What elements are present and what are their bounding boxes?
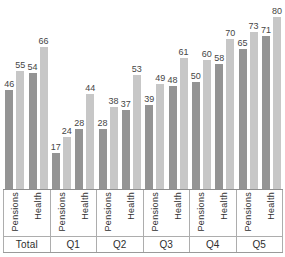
tick-cell-total-health: Health (27, 190, 50, 236)
axis-label-pensions: Pensions (243, 192, 253, 231)
bar-value-label: 48 (168, 75, 178, 85)
bar-group-q2: 28383753 (96, 0, 143, 189)
subcat-q3-health: 4861 (166, 0, 189, 189)
bar-q3-pensions-dark-gray-series (145, 105, 153, 189)
bar-wrap-total-health-dark-gray-series: 54 (29, 62, 37, 189)
tick-cell-q5-health: Health (259, 190, 282, 236)
bar-total-pensions-dark-gray-series (5, 90, 13, 189)
bar-value-label: 17 (51, 142, 61, 152)
bar-q2-health-light-gray-series (133, 75, 141, 189)
tick-cell-q3-health: Health (166, 190, 189, 236)
subcat-q2-pensions: 2838 (96, 0, 119, 189)
bar-wrap-q5-pensions-dark-gray-series: 65 (239, 38, 247, 189)
bar-q4-pensions-dark-gray-series (192, 82, 200, 190)
axis-label-health: Health (126, 192, 136, 220)
bar-q1-health-dark-gray-series (75, 129, 83, 189)
bar-q1-pensions-light-gray-series (63, 137, 71, 189)
subcat-total-health: 5466 (26, 0, 49, 189)
tick-cell-q2-pensions: Pensions (97, 190, 120, 236)
bar-value-label: 50 (191, 71, 201, 81)
subcat-q1-health: 2844 (73, 0, 96, 189)
bar-value-label: 38 (109, 96, 119, 106)
tick-group-q2: PensionsHealth (96, 190, 143, 236)
bar-value-label: 80 (272, 6, 282, 16)
bar-q3-health-dark-gray-series (169, 86, 177, 189)
bar-total-health-light-gray-series (40, 47, 48, 189)
bar-q1-health-light-gray-series (86, 94, 94, 189)
bar-value-label: 54 (28, 62, 38, 72)
bar-value-label: 58 (214, 53, 224, 63)
bar-value-label: 66 (39, 36, 49, 46)
tick-cell-q2-health: Health (120, 190, 143, 236)
axis-label-pensions: Pensions (57, 192, 67, 231)
bar-group-total: 46555466 (3, 0, 50, 189)
bar-value-label: 60 (202, 49, 212, 59)
bar-value-label: 24 (62, 126, 72, 136)
bar-value-label: 55 (15, 60, 25, 70)
bar-value-label: 39 (144, 94, 154, 104)
bar-wrap-q4-pensions-light-gray-series: 60 (203, 49, 211, 189)
tick-group-q3: PensionsHealth (143, 190, 190, 236)
bar-group-q3: 39494861 (143, 0, 190, 189)
bar-q4-health-light-gray-series (226, 39, 234, 190)
bar-value-label: 71 (261, 25, 271, 35)
tick-cell-q1-health: Health (73, 190, 96, 236)
subcat-total-pensions: 4655 (3, 0, 26, 189)
bar-value-label: 61 (179, 47, 189, 57)
tick-group-q1: PensionsHealth (50, 190, 97, 236)
bar-wrap-q2-pensions-light-gray-series: 38 (110, 96, 118, 189)
bar-group-q1: 17242844 (50, 0, 97, 189)
axis-label-health: Health (80, 192, 90, 220)
subcat-q3-pensions: 3949 (143, 0, 166, 189)
group-label-q2: Q2 (96, 237, 143, 252)
group-label-q1: Q1 (50, 237, 97, 252)
bar-value-label: 28 (98, 118, 108, 128)
subcategory-label-row: PensionsHealthPensionsHealthPensionsHeal… (3, 189, 283, 236)
bar-wrap-q3-health-dark-gray-series: 48 (169, 75, 177, 189)
bar-wrap-q5-pensions-light-gray-series: 73 (250, 21, 258, 189)
bar-wrap-total-pensions-dark-gray-series: 46 (5, 79, 13, 189)
axis-label-pensions: Pensions (150, 192, 160, 231)
bar-wrap-q4-health-light-gray-series: 70 (226, 28, 234, 190)
grouped-bar-chart: 4655546617242844283837533949486150605870… (0, 0, 285, 257)
group-label-q3: Q3 (143, 237, 190, 252)
bar-q2-pensions-light-gray-series (110, 107, 118, 189)
bar-wrap-q3-pensions-dark-gray-series: 39 (145, 94, 153, 189)
bar-value-label: 53 (132, 64, 142, 74)
bar-q5-health-light-gray-series (273, 17, 281, 189)
bar-group-q5: 65737180 (236, 0, 283, 189)
axis-label-health: Health (173, 192, 183, 220)
bar-wrap-q1-health-light-gray-series: 44 (86, 83, 94, 189)
category-axis: PensionsHealthPensionsHealthPensionsHeal… (3, 189, 283, 253)
bar-q5-pensions-light-gray-series (250, 32, 258, 189)
bar-value-label: 46 (4, 79, 14, 89)
subcat-q4-pensions: 5060 (190, 0, 213, 189)
bar-q3-pensions-light-gray-series (156, 84, 164, 189)
tick-group-q4: PensionsHealth (189, 190, 236, 236)
bar-q5-pensions-dark-gray-series (239, 49, 247, 189)
bar-q3-health-light-gray-series (180, 58, 188, 189)
axis-label-health: Health (219, 192, 229, 220)
tick-group-total: PensionsHealth (3, 190, 50, 236)
bar-wrap-q1-pensions-dark-gray-series: 17 (52, 142, 60, 190)
axis-label-health: Health (266, 192, 276, 220)
bar-value-label: 70 (225, 28, 235, 38)
axis-label-pensions: Pensions (196, 192, 206, 231)
bar-total-health-dark-gray-series (29, 73, 37, 189)
bar-q4-health-dark-gray-series (215, 64, 223, 189)
bar-wrap-q2-pensions-dark-gray-series: 28 (99, 118, 107, 189)
group-label-q4: Q4 (189, 237, 236, 252)
bar-value-label: 65 (238, 38, 248, 48)
bar-wrap-q1-pensions-light-gray-series: 24 (63, 126, 71, 189)
group-label-total: Total (3, 237, 50, 252)
bar-q1-pensions-dark-gray-series (52, 153, 60, 190)
axis-label-health: Health (33, 192, 43, 220)
subcat-q5-pensions: 6573 (236, 0, 259, 189)
subcat-q2-health: 3753 (120, 0, 143, 189)
bar-wrap-q1-health-dark-gray-series: 28 (75, 118, 83, 189)
tick-cell-q5-pensions: Pensions (237, 190, 260, 236)
bar-q5-health-dark-gray-series (262, 36, 270, 189)
bar-wrap-q4-pensions-dark-gray-series: 50 (192, 71, 200, 190)
group-name-row: TotalQ1Q2Q3Q4Q5 (3, 236, 283, 253)
axis-label-pensions: Pensions (10, 192, 20, 231)
